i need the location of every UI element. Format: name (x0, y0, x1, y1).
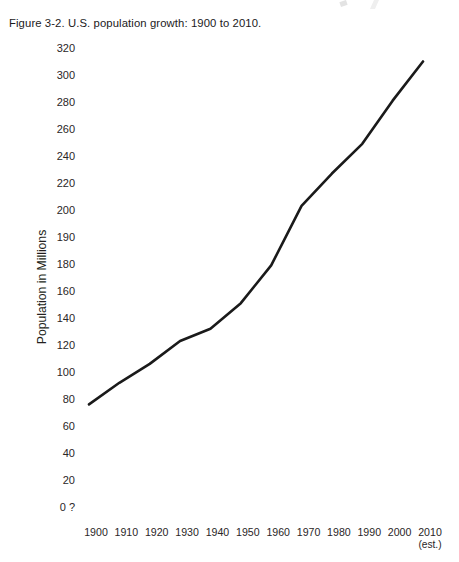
population-line-series (89, 62, 423, 405)
x-axis-tick-label: 2010(est.) (404, 526, 456, 551)
x-axis-tick-labels: 1900191019201930194019501960197019801990… (0, 526, 459, 560)
chart-plot-svg (0, 0, 459, 562)
figure-container: Figure 3-2. U.S. population growth: 1900… (0, 0, 459, 562)
